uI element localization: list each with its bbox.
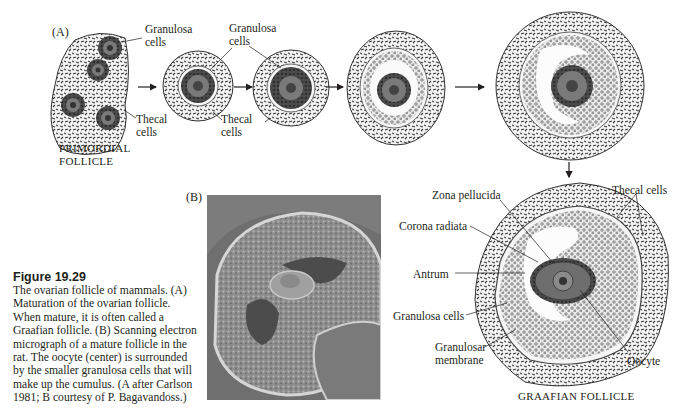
primordial-thecal-label-line2: cells xyxy=(136,126,157,138)
primordial-granulosa-label-line2: cells xyxy=(145,36,166,48)
primary-follicle xyxy=(163,48,233,121)
early-antral-follicle xyxy=(347,31,445,145)
graafian-follicle-title: GRAAFIAN FOLLICLE xyxy=(518,390,635,402)
antrum-label: Antrum xyxy=(413,268,449,280)
stage3-granulosa-label-line2: cells xyxy=(229,35,250,47)
thecal-cells-label: Thecal cells xyxy=(612,184,667,196)
granulosar-membrane-label-line1: Granulosar xyxy=(435,341,486,353)
stage2-thecal-label-line2: cells xyxy=(221,126,242,138)
granulosar-membrane-label-line2: membrane xyxy=(435,354,484,366)
primordial-follicle-title-line1: PRIMORDIAL xyxy=(59,142,130,154)
zona-pellucida-label: Zona pellucida xyxy=(432,189,501,201)
figure-title: Figure 19.29 xyxy=(13,271,86,283)
oocyte-label: Oocyte xyxy=(627,355,660,367)
primordial-thecal-label-line1: Thecal xyxy=(136,113,167,125)
electron-micrograph-image xyxy=(207,195,381,400)
corona-radiata-label: Corona radiata xyxy=(399,220,467,232)
late-antral-follicle xyxy=(496,12,644,160)
panel-b-label: (B) xyxy=(186,191,202,203)
secondary-follicle xyxy=(249,46,329,126)
panel-a-label: (A) xyxy=(52,26,69,38)
primordial-granulosa-label-line1: Granulosa xyxy=(145,23,192,35)
primordial-follicle xyxy=(51,33,142,154)
figure-caption: The ovarian follicle of mammals. (A) Mat… xyxy=(13,284,198,405)
primordial-follicle-title-line2: FOLLICLE xyxy=(59,155,113,167)
granulosa-cells-label: Granulosa cells xyxy=(393,310,464,322)
stage2-thecal-label-line1: Thecal xyxy=(221,113,252,125)
stage3-granulosa-label-line1: Granulosa xyxy=(229,22,276,34)
